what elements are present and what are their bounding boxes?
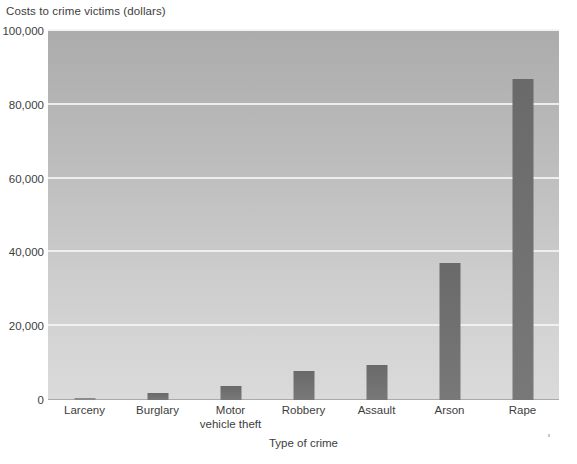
- plot-area: [48, 31, 559, 400]
- y-tick-label-0: 0: [0, 394, 44, 406]
- bar-slot: [413, 31, 486, 400]
- bar-arson: [439, 263, 460, 400]
- y-axis-tick-labels: 020,00040,00060,00080,000100,000: [0, 31, 44, 400]
- bar-assault: [366, 365, 387, 400]
- bar-burglary: [147, 393, 168, 400]
- bar-chart-figure: Costs to crime victims (dollars) 020,000…: [0, 0, 577, 464]
- bar-slot: [486, 31, 559, 400]
- y-tick-label-100000: 100,000: [0, 25, 44, 37]
- bar-series: [48, 31, 559, 400]
- y-tick-label-20000: 20,000: [0, 320, 44, 332]
- x-axis-title: Type of crime: [48, 437, 559, 449]
- bar-rape: [512, 79, 533, 400]
- x-tick-label-line: Assault: [358, 404, 396, 416]
- bar-robbery: [293, 371, 314, 400]
- y-tick-label-40000: 40,000: [0, 246, 44, 258]
- bar-larceny: [74, 398, 95, 400]
- y-axis-title: Costs to crime victims (dollars): [6, 5, 166, 17]
- x-tick-label-line: Burglary: [136, 404, 179, 416]
- bar-slot: [121, 31, 194, 400]
- bar-slot: [340, 31, 413, 400]
- bar-slot: [194, 31, 267, 400]
- scan-artifact-dot: [548, 434, 550, 437]
- bar-slot: [48, 31, 121, 400]
- y-tick-label-80000: 80,000: [0, 99, 44, 111]
- x-tick-label-line: Larceny: [64, 404, 105, 416]
- x-tick-label-line: Rape: [509, 404, 537, 416]
- bar-motor-vehicle-theft: [220, 386, 241, 400]
- y-tick-label-60000: 60,000: [0, 173, 44, 185]
- x-tick-label-rape: Rape: [478, 404, 568, 418]
- x-tick-label-line: vehicle theft: [186, 418, 276, 432]
- x-tick-label-line: Motor: [216, 404, 245, 416]
- bar-slot: [267, 31, 340, 400]
- x-tick-label-line: Arson: [434, 404, 464, 416]
- x-tick-label-line: Robbery: [282, 404, 325, 416]
